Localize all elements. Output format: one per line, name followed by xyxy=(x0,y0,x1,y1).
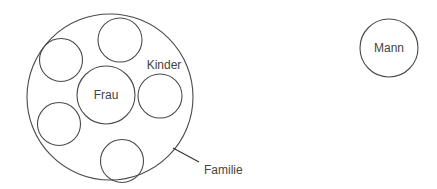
child-circle-top xyxy=(98,18,142,62)
family-connector-line xyxy=(173,148,199,162)
family-label: Familie xyxy=(204,163,243,177)
man-label: Mann xyxy=(374,41,404,55)
child-circle-top-left xyxy=(40,39,83,82)
child-circle-bottom xyxy=(101,140,144,183)
wife-label: Frau xyxy=(94,88,119,102)
child-circle-bottom-left xyxy=(38,103,81,146)
child-circle-right xyxy=(138,74,182,118)
children-label: Kinder xyxy=(147,58,182,72)
family-diagram: Frau Kinder Familie Mann xyxy=(0,0,437,189)
